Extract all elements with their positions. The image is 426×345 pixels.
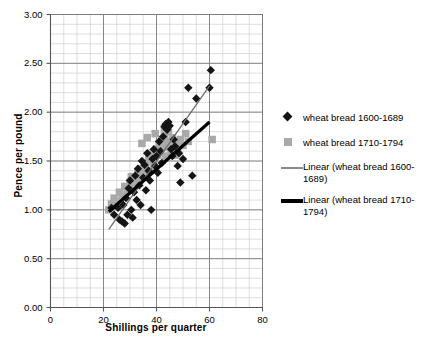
y-tick-label: 1.00 xyxy=(9,204,43,215)
legend-label: Linear (wheat bread 1600-1689) xyxy=(303,161,426,184)
diamond-marker-icon xyxy=(281,112,303,120)
y-tick-label: 2.00 xyxy=(9,106,43,117)
legend-label: wheat bread 1600-1689 xyxy=(303,112,403,124)
x-tick-label: 0 xyxy=(36,314,66,325)
chart-legend: wheat bread 1600-1689 wheat bread 1710-1… xyxy=(281,112,426,227)
legend-item-wheat-bread-1600-1689: wheat bread 1600-1689 xyxy=(281,112,426,124)
x-tick-label: 20 xyxy=(89,314,119,325)
legend-item-linear-1710-1794: Linear (wheat bread 1710-1794) xyxy=(281,194,426,217)
scatter-chart: Pence per pound Shillings per quarter 0.… xyxy=(0,0,426,345)
legend-item-linear-1600-1689: Linear (wheat bread 1600-1689) xyxy=(281,161,426,184)
x-tick-label: 60 xyxy=(195,314,225,325)
legend-label: wheat bread 1710-1794 xyxy=(303,137,403,149)
y-tick-label: 2.50 xyxy=(9,57,43,68)
y-tick-label: 0.50 xyxy=(9,253,43,264)
x-tick-label: 80 xyxy=(248,314,278,325)
y-tick-label: 1.50 xyxy=(9,155,43,166)
legend-label: Linear (wheat bread 1710-1794) xyxy=(303,194,426,217)
x-tick-label: 40 xyxy=(142,314,172,325)
y-tick-label: 0.00 xyxy=(9,302,43,313)
thin-line-marker-icon xyxy=(281,161,303,169)
thick-line-marker-icon xyxy=(281,194,303,203)
square-marker-icon xyxy=(281,137,303,146)
legend-item-wheat-bread-1710-1794: wheat bread 1710-1794 xyxy=(281,137,426,149)
y-tick-label: 3.00 xyxy=(9,9,43,20)
